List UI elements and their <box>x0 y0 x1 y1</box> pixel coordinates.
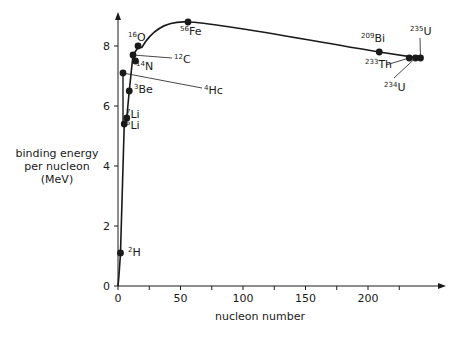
x-tick-label: 0 <box>115 292 122 305</box>
axes: 02468050100150200 <box>103 12 446 305</box>
y-axis-title-line-2: per nucleon <box>14 160 100 173</box>
label-12c: 12C <box>174 53 191 66</box>
label-56fe: 56Fe <box>180 25 202 38</box>
x-tick-label: 50 <box>174 292 188 305</box>
y-axis-title-line-1: binding energy <box>14 147 100 160</box>
y-axis-title: binding energy per nucleon (MeV) <box>14 147 100 186</box>
y-tick-label: 0 <box>103 280 110 293</box>
data-point-209bi <box>376 49 383 56</box>
data-point-2h <box>117 250 124 257</box>
y-axis-arrow-icon <box>115 12 121 20</box>
label-14n: 14N <box>136 60 153 73</box>
y-tick-label: 2 <box>103 220 110 233</box>
y-axis-title-line-3: (MeV) <box>14 173 100 186</box>
x-tick-label: 100 <box>233 292 254 305</box>
x-tick-label: 200 <box>358 292 379 305</box>
label-209bi: 209Bi <box>361 32 385 45</box>
x-tick-label: 150 <box>295 292 316 305</box>
label-3be: 3Be <box>134 83 153 96</box>
y-tick-label: 4 <box>103 160 110 173</box>
y-tick-label: 8 <box>103 40 110 53</box>
label-233th: 233Th <box>365 58 392 71</box>
x-axis-title: nucleon number <box>205 310 315 323</box>
data-points <box>117 19 424 257</box>
label-2h: 2H <box>128 246 141 259</box>
data-point-3be <box>126 88 133 95</box>
label-4hc: 4Hc <box>204 84 223 97</box>
x-axis-arrow-icon <box>438 283 446 289</box>
label-234u: 234U <box>384 81 405 94</box>
y-tick-label: 6 <box>103 100 110 113</box>
leader-line <box>133 55 172 58</box>
leader-line <box>394 58 416 78</box>
label-16o: 16O <box>128 31 146 44</box>
leader-line <box>420 38 421 58</box>
point-labels: 2H5Li7Li3Be4Hc14N12C16O56Fe209Bi233Th234… <box>123 25 431 259</box>
label-235u: 235U <box>410 25 431 38</box>
